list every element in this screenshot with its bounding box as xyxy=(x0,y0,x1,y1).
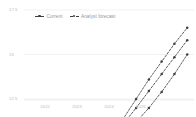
data-point-marker[interactable] xyxy=(186,27,189,30)
chart-legend: Current Analyst forecast xyxy=(35,12,115,21)
data-point-marker[interactable] xyxy=(148,90,151,93)
gridlines xyxy=(24,10,194,117)
data-point-marker[interactable] xyxy=(186,53,189,56)
legend-label-analyst-forecast: Analyst forecast xyxy=(81,14,115,20)
data-point-marker[interactable] xyxy=(173,43,176,46)
y-tick-label: 15 xyxy=(9,52,31,57)
legend-item-analyst-forecast[interactable]: Analyst forecast xyxy=(70,12,116,21)
data-point-marker[interactable] xyxy=(135,98,138,101)
data-point-marker[interactable] xyxy=(173,73,176,76)
x-tick-label: 2025 xyxy=(130,104,152,109)
legend-label-current: Current xyxy=(47,14,63,20)
forecast-chart: 17.51512.5107.5 2022202320242025 Current… xyxy=(0,0,196,117)
data-point-marker[interactable] xyxy=(148,78,151,81)
legend-swatch-solid-icon xyxy=(35,15,44,19)
y-tick-label: 17.5 xyxy=(9,7,31,12)
x-tick-label: 2023 xyxy=(66,104,88,109)
y-tick-label: 12.5 xyxy=(9,96,31,101)
data-point-marker[interactable] xyxy=(160,73,163,76)
data-point-marker[interactable] xyxy=(160,91,163,94)
x-tick-label: 2022 xyxy=(34,104,56,109)
x-tick-label: 2024 xyxy=(98,104,120,109)
legend-swatch-dashed-icon xyxy=(70,15,79,19)
data-point-marker[interactable] xyxy=(160,60,163,63)
data-point-marker[interactable] xyxy=(186,39,189,42)
legend-item-current[interactable]: Current xyxy=(35,12,63,21)
data-point-marker[interactable] xyxy=(173,56,176,59)
